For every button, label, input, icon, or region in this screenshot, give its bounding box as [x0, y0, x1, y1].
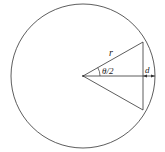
- angle-arc: [98, 68, 100, 76]
- sagitta-label: d: [145, 65, 150, 75]
- angle-label: θ/2: [102, 66, 114, 76]
- radius-label: r: [109, 47, 113, 58]
- radius-lower: [83, 76, 143, 110]
- center-point: [82, 75, 84, 77]
- circle-diagram: r θ/2 d: [0, 0, 165, 152]
- arrow-right: [151, 75, 155, 78]
